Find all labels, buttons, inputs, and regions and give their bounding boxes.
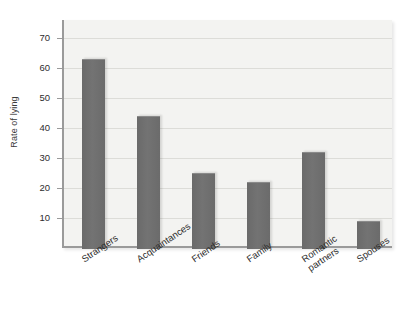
y-axis-tick: [57, 98, 63, 99]
y-gridline: [64, 158, 392, 159]
y-axis-tick-label: 40: [0, 122, 50, 133]
y-axis-tick: [57, 188, 63, 189]
plot-area: [62, 20, 392, 248]
y-gridline: [64, 218, 392, 219]
y-axis-tick-label: 10: [0, 212, 50, 223]
plot-inner: [64, 20, 392, 246]
y-gridline: [64, 128, 392, 129]
y-axis-tick: [57, 158, 63, 159]
y-axis-tick-label: 30: [0, 152, 50, 163]
y-axis-tick: [57, 68, 63, 69]
bar: [302, 152, 325, 249]
y-gridline: [64, 38, 392, 39]
y-axis-tick: [57, 128, 63, 129]
y-axis-tick-label: 60: [0, 62, 50, 73]
y-axis-tick: [57, 38, 63, 39]
bar: [82, 59, 105, 249]
bar-chart-figure: Rate of lying 10203040506070StrangersAcq…: [0, 0, 413, 326]
bar: [192, 173, 215, 249]
y-gridline: [64, 98, 392, 99]
bar: [137, 116, 160, 249]
y-axis-tick-label: 20: [0, 182, 50, 193]
y-gridline: [64, 68, 392, 69]
y-axis-tick: [57, 218, 63, 219]
y-axis-tick-label: 50: [0, 92, 50, 103]
y-axis-tick-label: 70: [0, 32, 50, 43]
y-gridline: [64, 188, 392, 189]
